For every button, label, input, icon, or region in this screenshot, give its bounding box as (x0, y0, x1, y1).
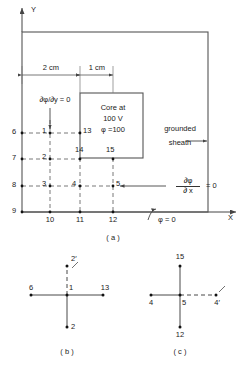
stencil-b-lines (30, 262, 105, 329)
stencil-c-label-top: 15 (176, 253, 184, 261)
node-label-14: 14 (75, 146, 83, 154)
caption-b: ( b ) (60, 348, 73, 356)
node-label-4: 4 (72, 180, 76, 188)
neumann-y-label: ∂φ/∂y = 0 (40, 96, 71, 104)
node-label-6: 6 (12, 128, 16, 136)
core-label-line3: φ =100 (101, 126, 125, 134)
dirichlet-label: φ = 0 (158, 216, 176, 224)
neumann-x-numerator: ∂φ (175, 177, 201, 186)
stencil-c-label-right: 4′ (214, 299, 220, 307)
figure-root: Y X 2 cm 1 cm ∂φ/∂y = 0 Core at 100 V φ … (0, 0, 242, 367)
neumann-x-fraction: ∂φ ∂ x (175, 177, 201, 195)
stencil-b-label-right: 13 (101, 284, 109, 292)
stencil-b-label-center: 1 (69, 284, 73, 292)
stencil-c-label-bottom: 12 (176, 331, 184, 339)
core-label-line1: Core at (101, 104, 126, 112)
node-label-12: 12 (109, 216, 117, 224)
stencil-c-lines (150, 265, 226, 329)
stencil-b-label-bottom: 2 (71, 323, 75, 331)
node-label-9: 9 (12, 207, 16, 215)
node-label-15: 15 (106, 146, 114, 154)
caption-c: ( c ) (174, 348, 187, 356)
node-label-3: 3 (42, 180, 46, 188)
node-label-8: 8 (12, 181, 16, 189)
stencil-b-label-top: 2′ (71, 255, 77, 263)
y-axis-label: Y (31, 6, 36, 14)
node-label-11: 11 (76, 216, 84, 224)
neumann-x-equals-zero: = 0 (206, 182, 217, 190)
stencil-c-label-center: 5 (182, 299, 186, 307)
core-label-line2: 100 V (103, 115, 123, 123)
node-label-2: 2 (42, 153, 46, 161)
node-label-10: 10 (46, 216, 54, 224)
caption-a: ( a ) (106, 234, 119, 242)
dimension-2cm-label: 2 cm (43, 64, 59, 72)
node-label-1: 1 (42, 127, 46, 135)
x-axis-label: X (228, 214, 233, 222)
stencil-b-label-left: 6 (29, 284, 33, 292)
sheath-label-line2: sheath (169, 139, 192, 147)
dimension-1cm-label: 1 cm (89, 64, 105, 72)
neumann-x-denominator: ∂ x (175, 187, 201, 196)
node-label-5: 5 (116, 180, 120, 188)
node-label-7: 7 (12, 154, 16, 162)
stencil-c-label-left: 4 (149, 299, 153, 307)
sheath-label-line1: grounded (164, 125, 196, 133)
node-label-13: 13 (83, 127, 91, 135)
